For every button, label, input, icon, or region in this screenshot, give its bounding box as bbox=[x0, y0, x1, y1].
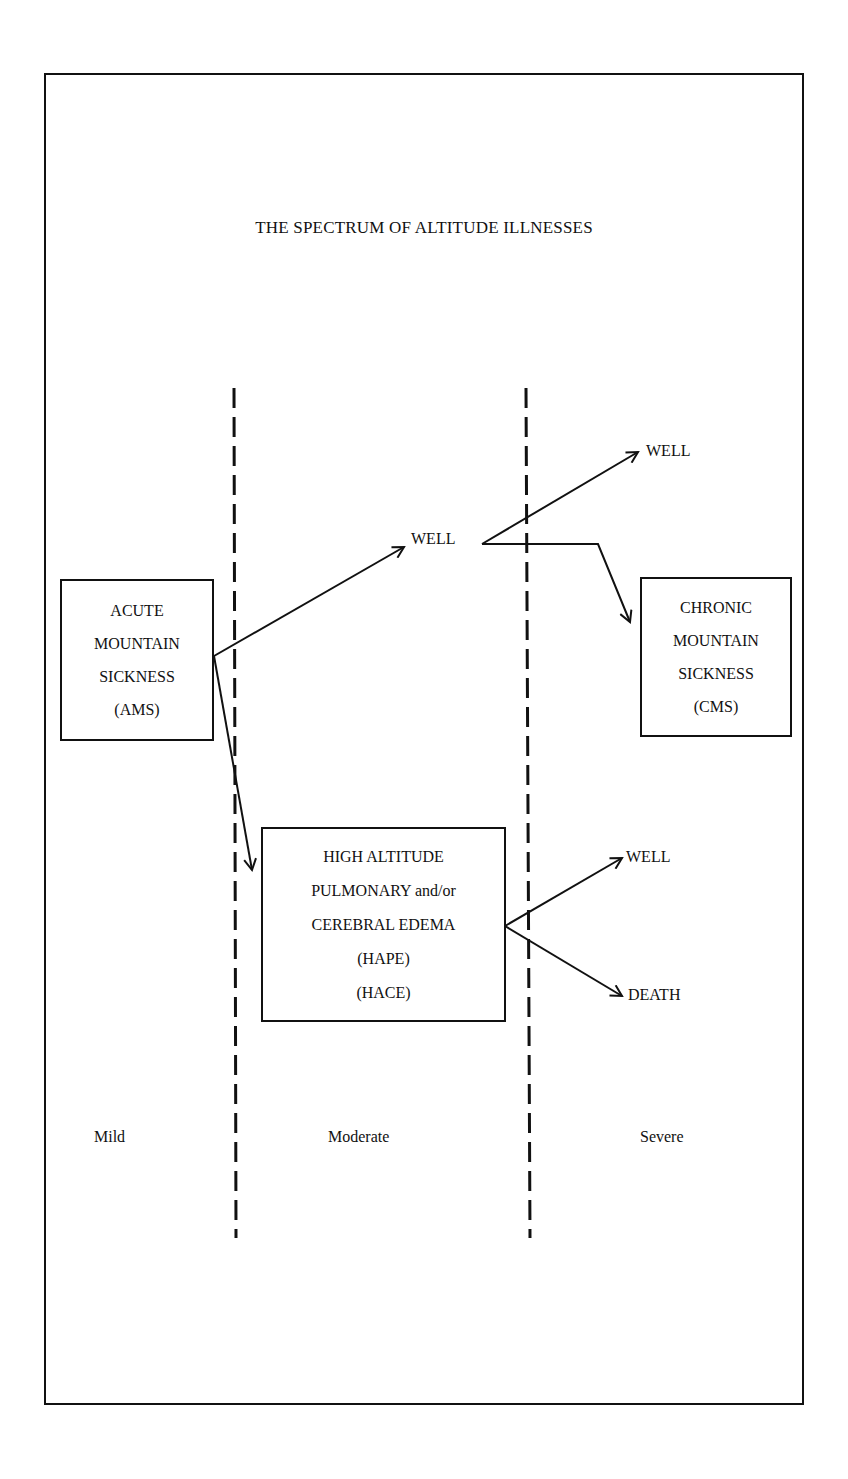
cms-box: CHRONIC MOUNTAIN SICKNESS (CMS) bbox=[640, 577, 792, 737]
hape-line: PULMONARY and/or bbox=[311, 874, 456, 908]
zone-label-mild: Mild bbox=[94, 1128, 125, 1146]
cms-line: CHRONIC bbox=[680, 591, 752, 624]
cms-line: MOUNTAIN bbox=[673, 624, 759, 657]
outcome-death: DEATH bbox=[628, 986, 680, 1004]
arrow-well-to-well bbox=[482, 452, 638, 544]
ams-line: MOUNTAIN bbox=[94, 627, 180, 660]
hape-hace-box: HIGH ALTITUDE PULMONARY and/or CEREBRAL … bbox=[261, 827, 506, 1022]
hape-line: CEREBRAL EDEMA bbox=[312, 908, 456, 942]
divider-mild-moderate bbox=[234, 388, 236, 1238]
zone-label-severe: Severe bbox=[640, 1128, 684, 1146]
ams-line: ACUTE bbox=[110, 594, 163, 627]
cms-line: (CMS) bbox=[694, 690, 738, 723]
hape-line: (HAPE) bbox=[357, 942, 409, 976]
outcome-well-top-right: WELL bbox=[646, 442, 690, 460]
ams-line: SICKNESS bbox=[99, 660, 175, 693]
cms-line: SICKNESS bbox=[678, 657, 754, 690]
outcome-well-middle: WELL bbox=[411, 530, 455, 548]
hape-line: HIGH ALTITUDE bbox=[323, 840, 444, 874]
outcome-well-lower-right: WELL bbox=[626, 848, 670, 866]
ams-line: (AMS) bbox=[114, 693, 159, 726]
arrow-hape-to-death bbox=[505, 926, 622, 996]
hape-line: (HACE) bbox=[356, 976, 410, 1010]
zone-label-moderate: Moderate bbox=[328, 1128, 389, 1146]
arrow-hape-to-well bbox=[505, 858, 622, 926]
arrow-ams-to-hape bbox=[214, 656, 252, 870]
arrow-ams-to-well bbox=[214, 547, 404, 656]
ams-box: ACUTE MOUNTAIN SICKNESS (AMS) bbox=[60, 579, 214, 741]
arrow-well-to-cms bbox=[482, 544, 630, 622]
